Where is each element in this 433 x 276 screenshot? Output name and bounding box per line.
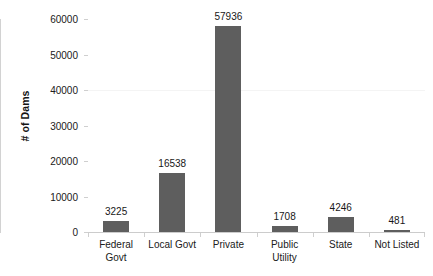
x-axis-category-label-line1: Federal (99, 239, 133, 250)
x-axis-category-labels: FederalGovtLocal GovtPrivatePublicUtilit… (88, 238, 425, 276)
bar-group: 57936 (200, 19, 256, 232)
y-axis-tick-label: 40000 (50, 85, 78, 96)
bar-chart: # of Dams 010000200003000040000500006000… (0, 0, 433, 276)
bar[interactable] (103, 221, 129, 232)
x-axis-category-label: State (313, 238, 369, 251)
x-axis-tick-mark (369, 233, 370, 237)
x-axis-tick-mark (424, 233, 425, 237)
x-axis-tick-mark (313, 233, 314, 237)
bar[interactable] (159, 173, 185, 232)
bar-value-label: 57936 (215, 12, 243, 22)
y-axis-tick-label: 60000 (50, 14, 78, 25)
bar-value-label: 3225 (105, 207, 127, 217)
bar-value-label: 481 (389, 216, 406, 226)
x-axis-category-label-line1: Public (271, 239, 298, 250)
x-axis-category-label: Local Govt (144, 238, 200, 251)
x-axis-category-label: FederalGovt (88, 238, 144, 264)
bar[interactable] (215, 26, 241, 232)
x-axis-category-label-line1: State (329, 239, 352, 250)
bar-group: 481 (369, 19, 425, 232)
bar-group: 16538 (144, 19, 200, 232)
x-axis-category-label-line1: Not Listed (374, 239, 419, 250)
bar-group: 4246 (313, 19, 369, 232)
bar[interactable] (384, 230, 410, 232)
y-axis-tick-label: 30000 (50, 120, 78, 131)
y-axis-title-text: # of Dams (19, 90, 31, 141)
y-axis-tick-label: 0 (72, 227, 78, 238)
bar-group: 3225 (88, 19, 144, 232)
x-axis-tick-mark (144, 233, 145, 237)
x-axis-category-label-line2: Utility (257, 251, 313, 264)
x-axis-category-label: Private (200, 238, 256, 251)
y-axis-line (0, 19, 1, 233)
x-axis-category-label: PublicUtility (257, 238, 313, 264)
x-axis-tick-mark (200, 233, 201, 237)
x-axis-tick-mark (257, 233, 258, 237)
bar-value-label: 16538 (158, 159, 186, 169)
x-axis-category-label-line1: Private (213, 239, 244, 250)
x-axis-category-label: Not Listed (369, 238, 425, 251)
bar[interactable] (272, 226, 298, 232)
y-axis-tick-label: 10000 (50, 191, 78, 202)
x-axis-category-label-line1: Local Govt (148, 239, 196, 250)
bar-value-label: 4246 (330, 203, 352, 213)
bar-value-label: 1708 (273, 212, 295, 222)
y-axis-tick-label: 20000 (50, 156, 78, 167)
bars-layer: 3225165385793617084246481 (88, 19, 425, 232)
y-axis-tick-label: 50000 (50, 49, 78, 60)
y-axis-title: # of Dams (14, 0, 36, 232)
y-axis-tick-labels: 0100002000030000400005000060000 (36, 19, 83, 232)
bar[interactable] (328, 217, 354, 232)
x-axis-tick-mark (88, 233, 89, 237)
bar-group: 1708 (257, 19, 313, 232)
x-axis-category-label-line2: Govt (88, 251, 144, 264)
